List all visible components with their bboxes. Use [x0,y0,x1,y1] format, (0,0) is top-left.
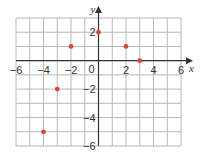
data-point [41,129,46,134]
x-tick-label: 2 [123,64,129,76]
scatter-chart: −6−4−22462−2−4−6 x y 0 [0,0,203,159]
y-tick-label: −2 [83,83,96,95]
x-tick-label: −2 [65,64,78,76]
y-tick-label: −6 [83,140,96,152]
y-tick-label: −4 [83,112,96,124]
x-axis-label: x [188,62,194,74]
axes [16,6,193,146]
y-tick-label: 2 [89,26,95,38]
x-tick-label: 6 [178,64,184,76]
x-tick-label: −6 [10,64,23,76]
y-axis-arrow-icon [95,6,102,13]
origin-label: 0 [88,63,94,75]
x-tick-label: −4 [37,64,50,76]
y-axis-label: y [90,3,96,15]
x-tick-label: 4 [150,64,156,76]
data-point [124,44,129,49]
data-point [96,30,101,35]
data-point [137,58,142,63]
data-point [55,87,60,92]
data-point [69,44,74,49]
